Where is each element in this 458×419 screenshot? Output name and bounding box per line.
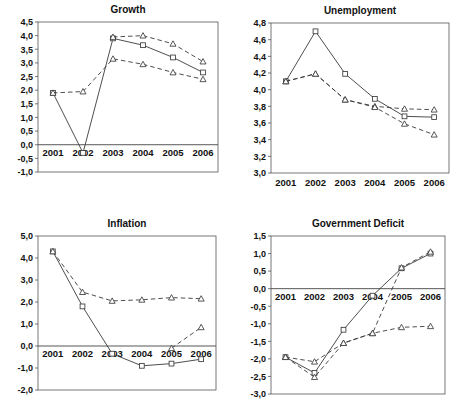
y-tick-label: 4,6 xyxy=(253,35,266,45)
data-point-triangle xyxy=(399,324,405,329)
y-tick-label: -3,0 xyxy=(250,389,266,399)
x-tick-label: 2005 xyxy=(394,177,416,188)
data-point-triangle xyxy=(342,97,348,102)
data-point-triangle xyxy=(170,41,176,46)
y-tick-label: 3,0 xyxy=(253,168,266,178)
panel-unemployment: Unemployment3,03,23,43,63,84,04,24,44,64… xyxy=(229,0,458,210)
y-tick-label: -1,0 xyxy=(250,319,266,329)
x-tick-label: 2001 xyxy=(275,291,297,302)
data-point-triangle xyxy=(402,121,408,126)
series-line-series-dashed-triangle-rising xyxy=(172,327,202,348)
y-tick-label: 1,0 xyxy=(20,113,33,123)
data-point-square xyxy=(402,114,407,119)
y-tick-label: 4,8 xyxy=(253,18,266,28)
series-line-series-dashed-triangle-lower xyxy=(286,252,431,377)
chart-title: Inflation xyxy=(108,218,147,229)
y-tick-label: 0,5 xyxy=(20,126,33,136)
data-point-square xyxy=(110,351,115,356)
chart-title: Unemployment xyxy=(324,5,397,16)
series-line-series-dashed-triangle-upper xyxy=(286,74,434,110)
data-point-square xyxy=(80,304,85,309)
chart-grid: Growth-1,0-0,50,00,51,01,52,02,53,03,54,… xyxy=(0,0,458,419)
x-tick-label: 2003 xyxy=(102,147,123,158)
data-point-square xyxy=(201,70,206,75)
x-tick-label: 2001 xyxy=(42,147,64,158)
data-point-triangle xyxy=(312,359,318,364)
data-point-square xyxy=(199,357,204,362)
data-point-square xyxy=(343,71,348,76)
y-tick-label: 4,2 xyxy=(253,68,266,78)
y-tick-label: -1,0 xyxy=(17,363,33,373)
data-point-square xyxy=(139,363,144,368)
data-point-square xyxy=(171,55,176,60)
chart-title: Growth xyxy=(111,4,146,15)
y-tick-label: 0,5 xyxy=(253,266,266,276)
y-tick-label: 2,5 xyxy=(20,72,33,82)
data-point-triangle xyxy=(110,56,116,61)
plot-frame xyxy=(38,236,216,390)
x-tick-label: 2005 xyxy=(162,147,184,158)
data-point-square xyxy=(341,327,346,332)
x-tick-label: 2006 xyxy=(424,177,445,188)
x-tick-label: 2006 xyxy=(420,291,441,302)
x-tick-label: 2001 xyxy=(275,177,297,188)
x-tick-label: 2005 xyxy=(391,291,413,302)
series-line-series-solid-square xyxy=(286,31,434,117)
y-tick-label: 0,0 xyxy=(253,284,266,294)
y-tick-label: 4,0 xyxy=(20,31,33,41)
y-tick-label: 1,0 xyxy=(20,319,33,329)
x-tick-label: 2002 xyxy=(72,348,93,359)
series-line-series-dashed-triangle-flat xyxy=(286,326,431,361)
y-tick-label: 4,0 xyxy=(20,253,33,263)
x-tick-label: 2006 xyxy=(192,147,213,158)
panel-growth: Growth-1,0-0,50,00,51,01,52,02,53,03,54,… xyxy=(0,0,229,210)
y-tick-label: 4,0 xyxy=(253,85,266,95)
data-point-square xyxy=(169,361,174,366)
data-point-triangle xyxy=(341,340,347,345)
series-line-series-solid-square xyxy=(286,254,431,373)
series-line-series-dashed-triangle-upper xyxy=(113,36,203,62)
data-point-square xyxy=(81,151,86,156)
series-line-series-dotted-triangle-lower xyxy=(286,74,434,135)
y-tick-label: 3,6 xyxy=(253,118,266,128)
data-point-triangle xyxy=(431,132,437,137)
data-point-triangle xyxy=(200,76,206,81)
data-point-triangle xyxy=(140,61,146,66)
y-tick-label: 1,5 xyxy=(253,231,266,241)
y-tick-label: 3,2 xyxy=(253,152,266,162)
data-point-square xyxy=(313,29,318,34)
y-tick-label: 3,0 xyxy=(20,275,33,285)
chart-title: Government Deficit xyxy=(312,218,405,229)
panel-inflation: Inflation-2,0-1,00,01,02,03,04,05,020012… xyxy=(0,210,229,419)
y-tick-label: 0,0 xyxy=(20,140,33,150)
data-point-triangle xyxy=(198,324,204,329)
x-tick-label: 2003 xyxy=(333,291,354,302)
data-point-triangle xyxy=(140,33,146,38)
y-tick-label: -2,0 xyxy=(17,385,33,395)
series-line-series-dashed-triangle-lower xyxy=(53,59,203,93)
y-tick-label: 3,4 xyxy=(253,135,266,145)
panel-government-deficit: Government Deficit-3,0-2,5-2,0-1,5-1,0-0… xyxy=(229,210,458,419)
x-tick-label: 2001 xyxy=(42,348,64,359)
data-point-square xyxy=(372,96,377,101)
data-point-triangle xyxy=(370,330,376,335)
y-tick-label: 4,4 xyxy=(253,52,266,62)
x-tick-label: 2004 xyxy=(364,177,386,188)
y-tick-label: 1,0 xyxy=(253,249,266,259)
y-tick-label: 3,5 xyxy=(20,45,33,55)
x-tick-label: 2003 xyxy=(335,177,356,188)
y-tick-label: 3,8 xyxy=(253,102,266,112)
x-tick-label: 2004 xyxy=(132,147,154,158)
data-point-triangle xyxy=(313,71,319,76)
data-point-square xyxy=(432,115,437,120)
plot-frame xyxy=(38,22,218,172)
y-tick-label: -1,0 xyxy=(17,167,33,177)
x-tick-label: 2002 xyxy=(305,177,326,188)
data-point-triangle xyxy=(200,59,206,64)
data-point-triangle xyxy=(170,69,176,74)
y-tick-label: 2,0 xyxy=(20,297,33,307)
y-tick-label: 4,5 xyxy=(20,17,33,27)
x-tick-label: 2002 xyxy=(304,291,325,302)
y-tick-label: 5,0 xyxy=(20,231,33,241)
x-tick-label: 2004 xyxy=(131,348,153,359)
